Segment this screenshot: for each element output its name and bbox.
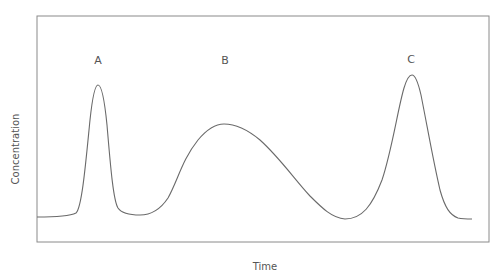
y-axis-title: Concentration <box>10 114 21 185</box>
plot-frame <box>37 16 489 242</box>
peak-label-a: A <box>94 54 102 67</box>
peak-label-c: C <box>407 53 415 66</box>
chart-canvas: A B C Time Concentration <box>0 0 497 276</box>
x-axis-title: Time <box>252 261 277 272</box>
concentration-curve <box>37 75 472 219</box>
peak-label-b: B <box>221 54 229 67</box>
